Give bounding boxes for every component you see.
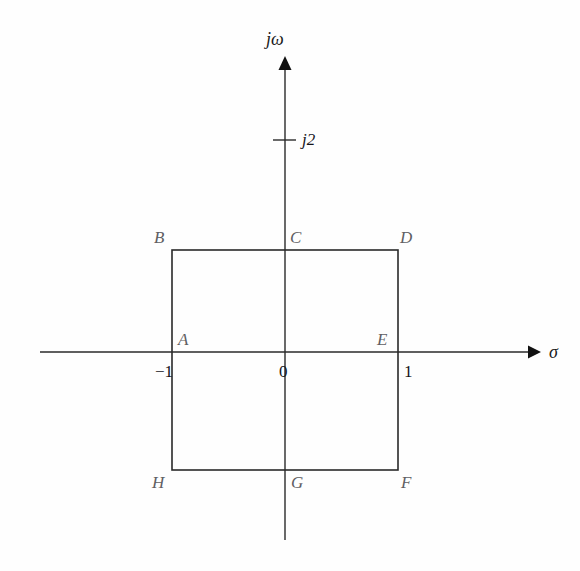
- tick-minus-1-label: −1: [155, 363, 173, 380]
- vertex-label-c: C: [290, 229, 301, 246]
- vertex-label-e: E: [377, 331, 387, 348]
- plane-canvas: [0, 0, 580, 571]
- vertex-label-f: F: [401, 474, 411, 491]
- real-axis-label: σ: [549, 343, 558, 361]
- vertex-label-h: H: [152, 474, 164, 491]
- vertex-label-b: B: [154, 229, 164, 246]
- vertex-label-g: G: [291, 474, 303, 491]
- s-plane-figure: jω σ j2 −1 0 1 A B C D E F G H: [0, 0, 580, 571]
- vertex-label-a: A: [178, 331, 188, 348]
- tick-plus-1-label: 1: [404, 363, 413, 380]
- tick-j2-label: j2: [302, 131, 315, 148]
- vertex-label-d: D: [400, 229, 412, 246]
- real-axis-arrowhead: [528, 346, 541, 359]
- imaginary-axis-arrowhead: [279, 56, 292, 70]
- imaginary-axis-label: jω: [266, 30, 284, 48]
- tick-origin-label: 0: [279, 363, 288, 380]
